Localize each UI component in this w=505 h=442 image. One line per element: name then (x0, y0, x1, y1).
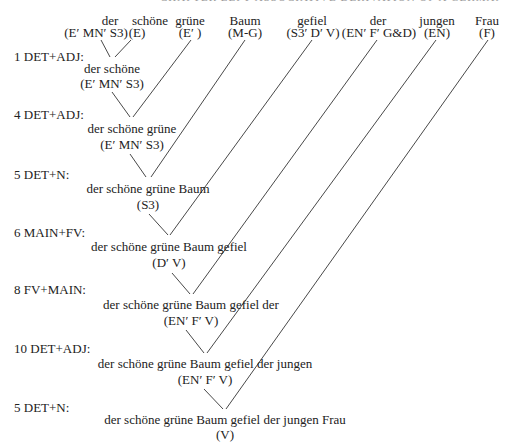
node-tag-6: (EN′ F′ V) (178, 373, 233, 387)
step-label-6: 6 MAIN+FV: (14, 226, 85, 240)
step-label-10: 10 DET+ADJ: (14, 342, 90, 356)
step-label-4: 4 DET+ADJ: (14, 108, 84, 122)
tag-jungen: (EN) (424, 26, 450, 40)
node-tag-5: (EN′ F′ V) (164, 314, 219, 328)
step-label-8: 8 FV+MAIN: (14, 283, 86, 297)
step-label-5-final: 5 DET+N: (14, 401, 69, 415)
node-phrase-1: der schöne (84, 62, 140, 76)
node-phrase-4: der schöne grüne Baum gefiel (91, 240, 247, 254)
tag-der: (E′ MN′ S3) (64, 26, 127, 40)
tag-baum: (M-G) (228, 26, 262, 40)
step-label-5: 5 DET+N: (14, 168, 69, 182)
node-tag-1: (E′ MN′ S3) (80, 77, 143, 91)
tag-der-2: (EN′ F′ G&D) (342, 26, 416, 40)
node-phrase-5: der schöne grüne Baum gefiel der (103, 298, 279, 312)
tag-gruene: (E′ ) (179, 26, 202, 40)
tag-gefiel: (S3′ D′ V) (286, 26, 339, 40)
node-phrase-3: der schöne grüne Baum (86, 182, 209, 196)
node-tag-4: (D′ V) (152, 256, 185, 270)
tag-frau: (F) (479, 26, 495, 40)
step-label-1: 1 DET+ADJ: (14, 50, 84, 64)
node-tag-2: (E′ MN′ S3) (100, 138, 163, 152)
node-tag-7: (V) (216, 428, 234, 442)
node-tag-3: (S3) (137, 198, 159, 212)
node-phrase-7: der schöne grüne Baum gefiel der jungen … (104, 413, 346, 427)
node-phrase-6: der schöne grüne Baum gefiel der jungen (98, 357, 312, 371)
tag-schoene: (E) (129, 26, 146, 40)
node-phrase-2: der schöne grüne (88, 122, 177, 136)
